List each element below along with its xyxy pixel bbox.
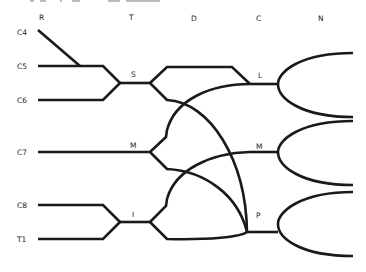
node-label-s: S xyxy=(131,70,136,79)
edge-c6-to-s xyxy=(38,83,120,100)
final-arc-middle xyxy=(278,121,353,185)
edge-c8-to-i xyxy=(38,205,120,222)
edge-t1-to-i xyxy=(38,222,120,239)
edge-c5-to-s xyxy=(38,66,120,83)
node-label-i: I xyxy=(132,210,134,219)
edge-s-to-l xyxy=(150,67,250,84)
edge-c4 xyxy=(38,30,80,66)
edge-m-to-l xyxy=(150,84,250,152)
final-arc-top xyxy=(278,53,353,117)
entrant-label-c5: C5 xyxy=(17,62,27,71)
entrant-label-c6: C6 xyxy=(17,96,27,105)
entrant-label-c8: C8 xyxy=(17,201,27,210)
column-header-n: N xyxy=(318,14,324,23)
bracket-diagram: R T D C N C4 C5 C6 C7 C8 T1 S M I L M P xyxy=(0,0,366,272)
entrant-label-t1: T1 xyxy=(16,235,27,244)
node-label-l: L xyxy=(258,71,263,80)
node-label-p: P xyxy=(256,211,261,220)
final-arc-bottom xyxy=(278,192,353,256)
edge-i-to-p xyxy=(150,222,247,239)
entrant-label-c7: C7 xyxy=(17,148,27,157)
node-label-m-right: M xyxy=(256,142,262,151)
column-header-t: T xyxy=(128,13,134,22)
node-label-m-left: M xyxy=(130,141,136,150)
column-header-d: D xyxy=(191,14,197,23)
edge-s-to-p xyxy=(150,83,247,232)
entrant-label-c4: C4 xyxy=(17,28,27,37)
column-header-c: C xyxy=(256,14,261,23)
column-header-r: R xyxy=(39,13,44,22)
